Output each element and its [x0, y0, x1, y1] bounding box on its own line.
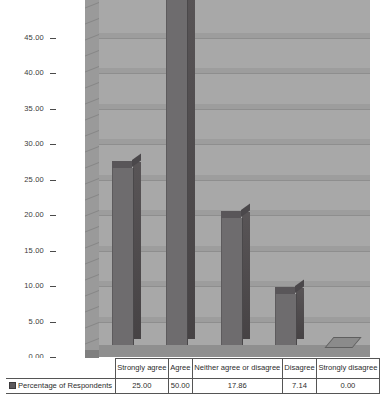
- bar-side: [296, 288, 304, 339]
- legend-entry: Percentage of Respondents: [6, 379, 115, 394]
- legend-label: Percentage of Respondents: [18, 381, 112, 390]
- plot-left-wall: [85, 0, 99, 357]
- bar-side: [133, 162, 141, 340]
- y-axis-tick-mark: [50, 109, 56, 110]
- y-axis: 0.005.0010.0015.0020.0025.0030.0035.0040…: [0, 0, 56, 399]
- y-axis-tick-label: 30.00: [24, 139, 44, 148]
- y-axis-tick-label: 45.00: [24, 33, 44, 42]
- bar-front: [221, 218, 243, 345]
- y-axis-tick-mark: [50, 286, 56, 287]
- table-cell-value: 0.00: [316, 379, 379, 394]
- plot-area: [99, 0, 370, 357]
- table-row: Percentage of Respondents 25.00 50.00 17…: [6, 379, 380, 394]
- legend-swatch-icon: [9, 382, 16, 389]
- chart-screenshot: 0.005.0010.0015.0020.0025.0030.0035.0040…: [0, 0, 385, 399]
- column-header: Agree: [168, 359, 192, 379]
- y-axis-tick-mark: [50, 180, 56, 181]
- bar-front: [112, 168, 134, 346]
- y-axis-tick-label: 40.00: [24, 68, 44, 77]
- data-table: Strongly agree Agree Neither agree or di…: [6, 358, 380, 394]
- y-axis-tick-label: 20.00: [24, 210, 44, 219]
- bar-front: [275, 294, 297, 345]
- bar-top: [112, 161, 132, 168]
- y-axis-tick-mark: [50, 73, 56, 74]
- column-header: Disagree: [283, 359, 317, 379]
- bar-front: [166, 0, 188, 345]
- bar-side: [187, 0, 195, 339]
- bar-side: [242, 212, 250, 339]
- bar-top: [275, 287, 295, 294]
- column-header: Strongly agree: [115, 359, 168, 379]
- y-axis-tick-label: 10.00: [24, 281, 44, 290]
- column-header: Neither agree or disagree: [192, 359, 282, 379]
- gridline: [99, 144, 370, 145]
- gridline: [99, 73, 370, 74]
- y-axis-tick-label: 5.00: [29, 317, 44, 326]
- y-axis-tick-mark: [50, 322, 56, 323]
- table-cell-value: 25.00: [115, 379, 168, 394]
- header-legend-spacer: [6, 359, 115, 379]
- gridline: [99, 109, 370, 110]
- table-cell-value: 17.86: [192, 379, 282, 394]
- y-axis-tick-label: 35.00: [24, 104, 44, 113]
- table-cell-value: 50.00: [168, 379, 192, 394]
- column-header: Strongly disagree: [316, 359, 379, 379]
- y-axis-tick-mark: [50, 144, 56, 145]
- gridline: [99, 38, 370, 39]
- y-axis-tick-mark: [50, 251, 56, 252]
- y-axis-tick-label: 25.00: [24, 175, 44, 184]
- table-header-row: Strongly agree Agree Neither agree or di…: [6, 359, 380, 379]
- y-axis-tick-label: 15.00: [24, 246, 44, 255]
- table-cell-value: 7.14: [283, 379, 317, 394]
- y-axis-tick-mark: [50, 215, 56, 216]
- y-axis-tick-mark: [50, 38, 56, 39]
- bar-top: [221, 211, 241, 218]
